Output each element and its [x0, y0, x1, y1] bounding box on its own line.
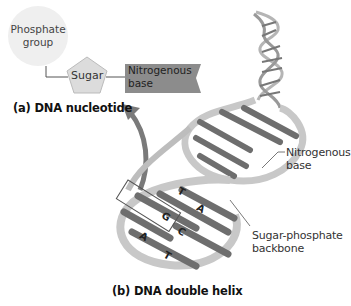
helix-base-label: Nitrogenous base — [286, 146, 351, 172]
phosphate-group-circle: Phosphategroup — [8, 6, 68, 66]
nucleotide-caption: (a) DNA nucleotide — [13, 101, 132, 115]
backbone-label: Sugar-phosphate backbone — [252, 229, 343, 255]
helix-base-label-line1: Nitrogenous — [286, 146, 351, 159]
base-label-line1: Nitrogenous — [128, 64, 192, 77]
helix-caption: (b) DNA double helix — [112, 284, 242, 298]
phosphate-label-line1: Phosphate — [10, 23, 65, 35]
sugar-label: Sugar — [71, 69, 103, 82]
base-leader-line — [262, 152, 278, 168]
nitrogenous-base-label: Nitrogenous base — [128, 64, 192, 90]
backbone-label-line1: Sugar-phosphate — [252, 229, 343, 242]
helix-base-label-line2: base — [286, 159, 351, 172]
phosphate-label-line2: group — [23, 36, 54, 48]
backbone-label-line2: backbone — [252, 242, 343, 255]
base-label-line2: base — [128, 77, 192, 90]
